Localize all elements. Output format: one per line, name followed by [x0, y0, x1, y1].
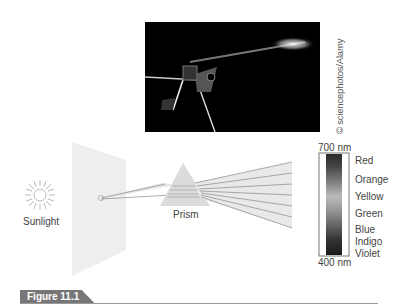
color-blue: Blue — [355, 224, 375, 235]
sunlight-label: Sunlight — [23, 216, 59, 227]
color-green: Green — [355, 208, 383, 219]
spectrum-band — [326, 154, 342, 255]
prism-label: Prism — [173, 209, 199, 220]
color-red: Red — [355, 155, 373, 166]
color-orange: Orange — [355, 174, 388, 185]
wavelength-700: 700 nm — [318, 142, 351, 153]
color-yellow: Yellow — [355, 191, 384, 202]
figure-rule — [20, 303, 378, 304]
color-violet: Violet — [355, 248, 380, 259]
sun-icon — [25, 180, 55, 210]
slit-screen — [72, 142, 126, 276]
color-indigo: Indigo — [355, 236, 382, 247]
wavelength-400: 400 nm — [318, 257, 351, 268]
